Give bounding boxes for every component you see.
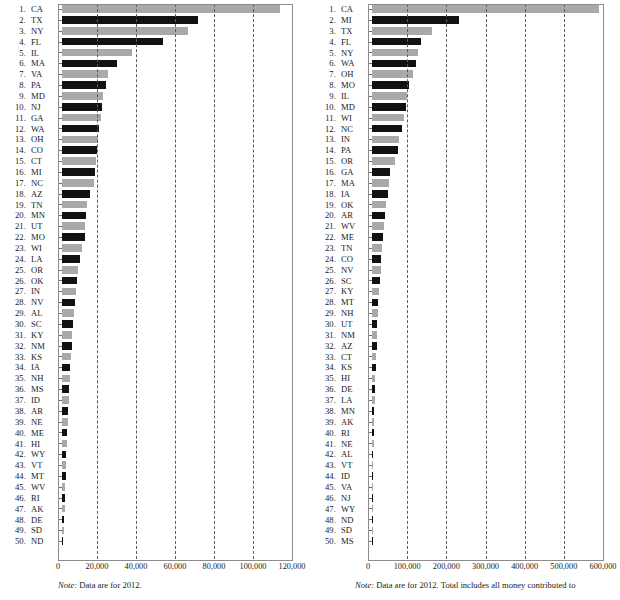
bar-track: [62, 504, 310, 515]
row-rank: 21.: [310, 222, 336, 231]
row-state-label: FL: [31, 38, 57, 47]
bar-track: [372, 4, 620, 15]
row-state-label: TX: [341, 27, 367, 36]
chart-row: 4.FL: [310, 37, 620, 48]
chart-row: 14.PA: [310, 145, 620, 156]
row-state-label: UT: [31, 222, 57, 231]
chart-row: 37.LA: [310, 395, 620, 406]
bar: [62, 114, 101, 122]
bar: [372, 440, 374, 448]
bar-track: [62, 460, 310, 471]
chart-row: 10.NJ: [0, 102, 310, 113]
bar: [62, 179, 94, 187]
row-rank: 32.: [0, 342, 26, 351]
x-axis-tick-label: 0: [366, 563, 370, 571]
bar-track: [62, 525, 310, 536]
row-rank: 44.: [310, 472, 336, 481]
bar-track: [372, 275, 620, 286]
row-rank: 14.: [310, 146, 336, 155]
chart-row: 6.WA: [310, 58, 620, 69]
bar-track: [372, 352, 620, 363]
chart-row: 41.NE: [310, 438, 620, 449]
row-rank: 17.: [0, 179, 26, 188]
row-state-label: NH: [341, 309, 367, 318]
row-state-label: KY: [341, 287, 367, 296]
right-chart-panel: 1.CA2.MI3.TX4.FL5.NY6.WA7.OH8.MO9.IL10.M…: [310, 0, 620, 600]
bar: [62, 537, 63, 545]
row-rank: 39.: [310, 418, 336, 427]
bar: [372, 320, 377, 328]
x-axis-tick-label: 300,000: [472, 563, 499, 571]
bar: [372, 103, 406, 111]
bar: [372, 146, 398, 154]
chart-row: 36.MS: [0, 384, 310, 395]
row-rank: 17.: [310, 179, 336, 188]
bar: [62, 27, 188, 35]
gridline: [97, 4, 98, 559]
row-rank: 24.: [310, 255, 336, 264]
bar-track: [372, 123, 620, 134]
row-rank: 43.: [310, 461, 336, 470]
bar-track: [372, 482, 620, 493]
chart-row: 9.IL: [310, 91, 620, 102]
row-state-label: TX: [31, 16, 57, 25]
bar-track: [62, 395, 310, 406]
bar-track: [372, 156, 620, 167]
row-state-label: VT: [31, 461, 57, 470]
row-rank: 22.: [310, 233, 336, 242]
row-state-label: CO: [341, 255, 367, 264]
row-rank: 16.: [310, 168, 336, 177]
chart-row: 31.KY: [0, 330, 310, 341]
row-state-label: PA: [31, 81, 57, 90]
bar: [372, 364, 376, 372]
row-rank: 4.: [310, 38, 336, 47]
bar-track: [372, 189, 620, 200]
chart-row: 34.KS: [310, 362, 620, 373]
chart-row: 30.SC: [0, 319, 310, 330]
bar-track: [372, 493, 620, 504]
row-rank: 26.: [310, 277, 336, 286]
bar: [62, 331, 72, 339]
bar: [62, 70, 108, 78]
bar-track: [372, 178, 620, 189]
chart-row: 43.VT: [0, 460, 310, 471]
bar-track: [62, 406, 310, 417]
row-state-label: AZ: [31, 190, 57, 199]
row-state-label: AK: [341, 418, 367, 427]
bar-track: [62, 514, 310, 525]
row-rank: 15.: [310, 157, 336, 166]
row-rank: 2.: [0, 16, 26, 25]
row-rank: 31.: [310, 331, 336, 340]
left-note-text: Data are for 2012.: [77, 580, 142, 590]
bar: [372, 49, 418, 57]
chart-row: 48.ND: [310, 514, 620, 525]
row-rank: 25.: [310, 266, 336, 275]
row-rank: 11.: [0, 114, 26, 123]
bar: [62, 38, 163, 46]
bar-track: [372, 265, 620, 276]
row-rank: 12.: [0, 125, 26, 134]
row-rank: 44.: [0, 472, 26, 481]
chart-row: 21.WV: [310, 221, 620, 232]
bar-track: [372, 536, 620, 547]
row-rank: 50.: [0, 537, 26, 546]
row-rank: 45.: [0, 483, 26, 492]
chart-row: 19.OK: [310, 199, 620, 210]
bar-track: [62, 145, 310, 156]
chart-row: 13.IN: [310, 134, 620, 145]
chart-row: 47.AK: [0, 504, 310, 515]
chart-row: 7.OH: [310, 69, 620, 80]
bar-track: [62, 47, 310, 58]
row-state-label: ND: [31, 537, 57, 546]
row-state-label: CT: [31, 157, 57, 166]
bar: [372, 396, 375, 404]
row-state-label: SD: [31, 526, 57, 535]
row-rank: 20.: [310, 211, 336, 220]
bar-track: [372, 384, 620, 395]
bar-track: [372, 319, 620, 330]
chart-row: 4.FL: [0, 37, 310, 48]
row-rank: 42.: [310, 450, 336, 459]
row-rank: 6.: [0, 59, 26, 68]
bar: [372, 136, 399, 144]
row-rank: 27.: [310, 287, 336, 296]
